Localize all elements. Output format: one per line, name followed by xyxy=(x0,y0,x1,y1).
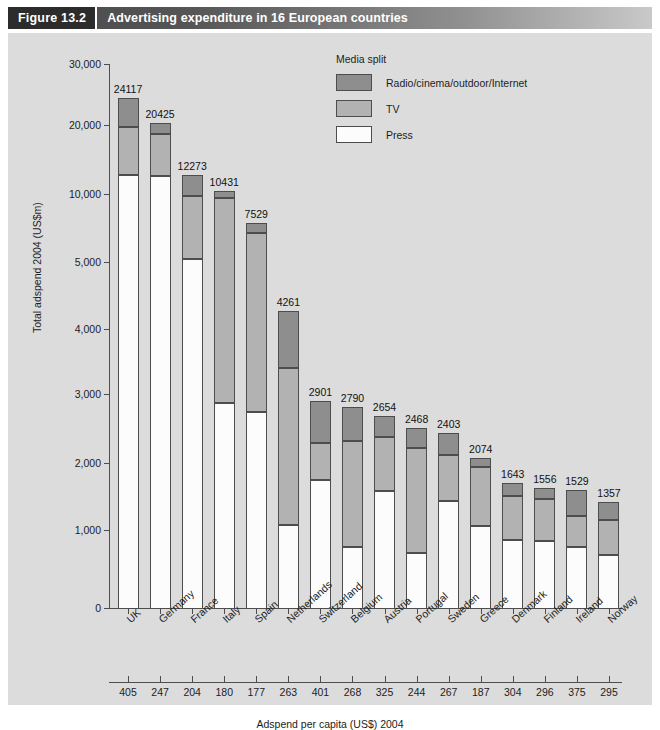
bar-value-label: 4261 xyxy=(277,296,300,308)
bar[interactable]: 20425 xyxy=(150,123,171,609)
bar-segment-press xyxy=(150,176,171,609)
bar-segment-radio xyxy=(406,428,427,448)
bar-segment-radio xyxy=(150,123,171,134)
bar-segment-tv xyxy=(470,467,491,526)
bar[interactable]: 2468 xyxy=(406,428,427,609)
per-capita-value: 295 xyxy=(600,686,618,698)
per-capita-tick xyxy=(352,676,353,682)
bar-value-label: 1556 xyxy=(533,473,556,485)
per-capita-tick xyxy=(192,676,193,682)
bar-segment-press xyxy=(246,412,267,609)
bar-segment-tv xyxy=(502,496,523,540)
bar-segment-tv xyxy=(150,134,171,176)
bar-segment-radio xyxy=(310,401,331,443)
y-tick-mark xyxy=(104,608,109,609)
bar-segment-tv xyxy=(310,443,331,480)
bar-value-label: 2074 xyxy=(469,443,492,455)
y-tick-label: 0 xyxy=(95,602,101,614)
per-capita-tick xyxy=(288,676,289,682)
per-capita-value: 401 xyxy=(312,686,330,698)
bar-segment-tv xyxy=(118,127,139,176)
bar[interactable]: 1529 xyxy=(566,490,587,609)
bar-segment-radio xyxy=(374,416,395,437)
bar-value-label: 12273 xyxy=(178,160,207,172)
bar-segment-tv xyxy=(598,520,619,555)
bar-value-label: 10431 xyxy=(210,176,239,188)
y-axis-title: Total adspend 2004 (US$m) xyxy=(31,202,43,333)
bar-value-label: 7529 xyxy=(245,208,268,220)
y-tick-mark xyxy=(104,125,109,126)
bar-segment-radio xyxy=(470,458,491,467)
bar[interactable]: 2074 xyxy=(470,458,491,609)
y-tick-label: 10,000 xyxy=(69,188,101,200)
y-tick-label: 2,000 xyxy=(75,457,101,469)
bar[interactable]: 2654 xyxy=(374,416,395,609)
per-capita-value: 247 xyxy=(151,686,169,698)
y-tick-mark xyxy=(104,262,109,263)
per-capita-value: 267 xyxy=(440,686,458,698)
bar-segment-tv xyxy=(214,198,235,402)
y-tick-label: 3,000 xyxy=(75,388,101,400)
bar-value-label: 20425 xyxy=(145,108,174,120)
per-capita-tick xyxy=(513,676,514,682)
bar-segment-radio xyxy=(534,488,555,499)
y-tick-label: 1,000 xyxy=(75,524,101,536)
y-tick-label: 20,000 xyxy=(69,119,101,131)
bar-segment-radio xyxy=(246,223,267,233)
bar-segment-radio xyxy=(214,191,235,199)
bar[interactable]: 24117 xyxy=(118,98,139,609)
y-tick-label: 5,000 xyxy=(75,256,101,268)
bar-segment-tv xyxy=(246,233,267,412)
bar-segment-tv xyxy=(566,516,587,547)
bar-value-label: 24117 xyxy=(114,83,142,95)
bar-segment-radio xyxy=(342,407,363,441)
bar-segment-tv xyxy=(182,196,203,259)
bar[interactable]: 1357 xyxy=(598,502,619,610)
bar[interactable]: 4261 xyxy=(278,311,299,609)
per-capita-tick xyxy=(545,676,546,682)
bar-value-label: 1357 xyxy=(597,487,620,499)
plot-area: 01,0002,0003,0004,0005,00010,00020,00030… xyxy=(109,64,622,609)
per-capita-value: 296 xyxy=(536,686,554,698)
figure-title: Advertising expenditure in 16 European c… xyxy=(97,7,408,29)
bar-segment-tv xyxy=(342,441,363,547)
figure-header: Figure 13.2 Advertising expenditure in 1… xyxy=(8,7,652,29)
per-capita-tick xyxy=(609,676,610,682)
bar-segment-radio xyxy=(502,483,523,496)
bar-value-label: 2403 xyxy=(437,418,460,430)
bar[interactable]: 7529 xyxy=(246,223,267,609)
per-capita-tick xyxy=(256,676,257,682)
bar-segment-radio xyxy=(438,433,459,455)
per-capita-value: 268 xyxy=(344,686,362,698)
bar-segment-press xyxy=(182,259,203,609)
bar-value-label: 1529 xyxy=(565,475,588,487)
bar[interactable]: 2790 xyxy=(342,407,363,609)
chart-panel: Media split Radio/cinema/outdoor/Interne… xyxy=(8,33,652,705)
bar-segment-radio xyxy=(182,175,203,196)
bar-segment-radio xyxy=(566,490,587,516)
bar-value-label: 2901 xyxy=(309,386,332,398)
bar[interactable]: 2403 xyxy=(438,433,459,609)
per-capita-value: 244 xyxy=(408,686,426,698)
y-tick-mark xyxy=(104,394,109,395)
bar[interactable]: 2901 xyxy=(310,401,331,609)
bar[interactable]: 10431 xyxy=(214,191,235,609)
y-tick-mark xyxy=(104,530,109,531)
per-capita-value: 187 xyxy=(472,686,490,698)
bar-segment-tv xyxy=(534,499,555,541)
per-capita-tick xyxy=(385,676,386,682)
bar-segment-radio xyxy=(278,311,299,368)
bar-segment-tv xyxy=(278,368,299,525)
y-tick-mark xyxy=(104,329,109,330)
per-capita-value: 204 xyxy=(183,686,201,698)
bar[interactable]: 1643 xyxy=(502,483,523,609)
bar-segment-radio xyxy=(118,98,139,127)
per-capita-tick xyxy=(224,676,225,682)
bar-segment-radio xyxy=(598,502,619,521)
bar-value-label: 1643 xyxy=(501,468,524,480)
per-capita-value: 180 xyxy=(215,686,233,698)
bar-segment-press xyxy=(118,175,139,609)
bar-value-label: 2654 xyxy=(373,401,396,413)
bar[interactable]: 12273 xyxy=(182,175,203,609)
